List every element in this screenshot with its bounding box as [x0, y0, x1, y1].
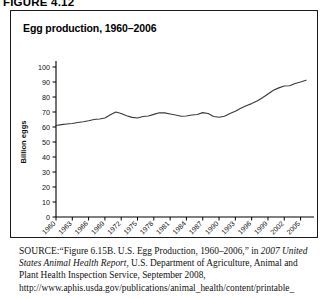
- y-axis-tick-label: 10: [42, 198, 50, 207]
- source-label: SOURCE:: [19, 245, 60, 256]
- y-axis-tick-label: 90: [42, 78, 50, 87]
- y-axis-tick-label: 30: [42, 168, 50, 177]
- x-axis-tick-label: 1972: [106, 220, 122, 236]
- y-axis-tick-label: 80: [42, 93, 50, 102]
- x-axis-tick-label: 1984: [171, 220, 187, 236]
- line-chart-svg: 0102030405060708090100196019631966196919…: [11, 11, 319, 239]
- x-axis-tick-label: 1993: [220, 220, 236, 236]
- x-axis-tick-label: 1981: [155, 220, 171, 236]
- x-axis-tick-label: 1963: [57, 220, 73, 236]
- x-axis-tick-label: 1975: [122, 220, 138, 236]
- x-axis-tick-label: 1996: [236, 220, 252, 236]
- y-axis-title: Billion eggs: [19, 120, 28, 163]
- chart-container: Egg production, 1960–2006 01020304050607…: [10, 10, 318, 238]
- x-axis-tick-label: 1978: [139, 220, 155, 236]
- source-note: SOURCE:“Figure 6.15B. U.S. Egg Productio…: [19, 245, 319, 294]
- x-axis-tick-label: 1966: [73, 220, 89, 236]
- x-axis-tick-label: 2005: [285, 220, 301, 236]
- y-axis-tick-label: 50: [42, 138, 50, 147]
- y-axis-tick-label: 20: [42, 183, 50, 192]
- x-axis-tick-label: 1999: [253, 220, 269, 236]
- x-axis-tick-label: 1990: [204, 220, 220, 236]
- x-axis-tick-label: 1969: [90, 220, 106, 236]
- y-axis-tick-label: 70: [42, 108, 50, 117]
- y-axis-tick-label: 40: [42, 153, 50, 162]
- figure-label: FIGURE 4.12: [3, 0, 74, 8]
- y-axis-tick-label: 0: [46, 213, 50, 222]
- source-text-part1: “Figure 6.15B. U.S. Egg Production, 1960…: [60, 246, 261, 256]
- data-series-line: [56, 80, 306, 125]
- chart-plot-area: 0102030405060708090100196019631966196919…: [11, 11, 319, 239]
- y-axis-tick-label: 60: [42, 123, 50, 132]
- x-axis-tick-label: 2002: [269, 220, 285, 236]
- y-axis-tick-label: 100: [38, 63, 50, 72]
- x-axis-tick-label: 1987: [187, 220, 203, 236]
- x-axis-tick-label: 1960: [41, 220, 57, 236]
